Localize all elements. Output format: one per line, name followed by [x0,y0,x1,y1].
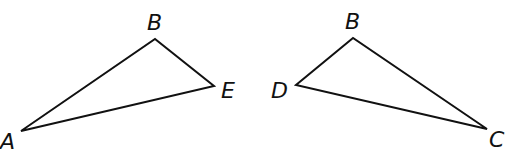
vertex-label-b-left: B [147,10,162,35]
vertex-label-c: C [489,127,505,151]
diagram-canvas: A B E B D C [0,0,507,151]
triangle-abe [21,39,214,131]
vertex-label-d: D [271,78,288,103]
vertex-label-b-right: B [345,9,360,34]
triangle-bdc [296,38,487,129]
triangles-figure: A B E B D C [0,0,507,151]
vertex-label-a: A [0,129,15,151]
vertex-label-e: E [221,78,235,103]
